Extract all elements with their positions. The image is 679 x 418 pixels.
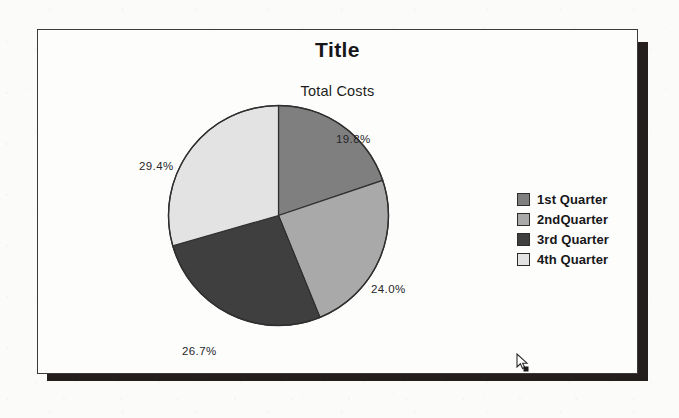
chart-legend[interactable]: 1st Quarter 2ndQuarter 3rd Quarter 4th Q…	[517, 190, 629, 270]
legend-item-q4[interactable]: 4th Quarter	[517, 250, 629, 269]
pie-slice-label-q4: 29.4%	[139, 160, 174, 172]
legend-item-q1[interactable]: 1st Quarter	[517, 190, 629, 209]
legend-label-q1: 1st Quarter	[537, 192, 607, 207]
pie-slice-label-q3: 26.7%	[182, 345, 217, 357]
mouse-pointer-icon	[515, 353, 531, 373]
pie-slice-label-q1: 19.8%	[336, 133, 371, 145]
legend-swatch-q2	[517, 213, 530, 226]
legend-label-q2: 2ndQuarter	[537, 212, 608, 227]
legend-swatch-q1	[517, 193, 530, 206]
chart-subtitle: Total Costs	[38, 83, 637, 99]
legend-label-q3: 3rd Quarter	[537, 232, 609, 247]
legend-swatch-q4	[517, 253, 530, 266]
chart-title: Title	[38, 38, 637, 62]
legend-item-q3[interactable]: 3rd Quarter	[517, 230, 629, 249]
legend-item-q2[interactable]: 2ndQuarter	[517, 210, 629, 229]
legend-swatch-q3	[517, 233, 530, 246]
pie-slice-label-q2: 24.0%	[371, 283, 406, 295]
chart-frame[interactable]: Title Total Costs 19.8% 24.0% 26.7% 29.4…	[37, 29, 638, 374]
legend-label-q4: 4th Quarter	[537, 252, 608, 267]
